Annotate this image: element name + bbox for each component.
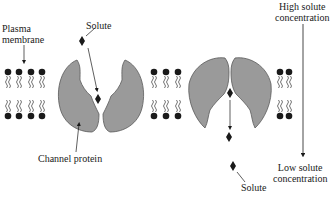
leader-solute-bottom [237,172,245,182]
label-plasma-membrane: Plasma membrane [2,23,44,45]
membrane-right [277,69,293,120]
solute-diamond-below [226,132,232,142]
membrane-middle [151,69,182,120]
label-low-concentration: Low solute concentration [273,162,327,184]
label-line: Plasma [2,23,44,34]
label-line: concentration [275,12,329,23]
label-solute-top: Solute [86,20,112,31]
membrane-left [5,69,46,120]
solute-diamond-right-channel [227,88,233,98]
label-solute-bottom: Solute [241,182,267,193]
label-high-concentration: High solute concentration [275,1,329,23]
solute-diamond-top [79,36,85,46]
label-line: concentration [273,173,327,184]
solute-diamond-in-channel [95,94,101,104]
label-line: Low solute [273,162,327,173]
solute-path-arrow-left [88,48,97,90]
channel-protein-open [58,60,143,132]
label-line: High solute [275,1,329,12]
solute-diamond-bottom [230,161,236,171]
label-channel-protein: Channel protein [38,153,102,164]
label-line: membrane [2,34,44,45]
